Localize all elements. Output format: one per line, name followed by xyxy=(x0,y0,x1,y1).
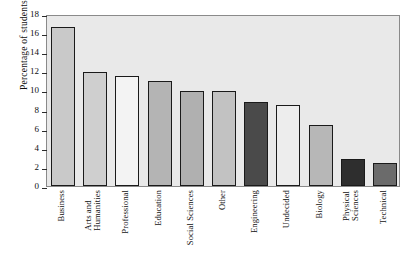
x-axis-category: Education xyxy=(147,190,171,264)
x-axis-label: Arts andHumanities xyxy=(84,190,103,231)
bar xyxy=(115,76,139,186)
bar xyxy=(244,102,268,186)
y-axis-tick-label: 8 xyxy=(13,106,39,115)
bar xyxy=(51,27,75,186)
y-axis-tick xyxy=(42,150,47,151)
x-axis-label: PhysicalSciences xyxy=(342,190,361,221)
x-axis-label: Business xyxy=(57,190,66,221)
y-axis-tick-label: 14 xyxy=(13,48,39,57)
bar xyxy=(309,125,333,186)
y-axis-tick xyxy=(42,188,47,189)
x-axis-category: Biology xyxy=(308,190,332,264)
y-axis-tick xyxy=(42,112,47,113)
x-axis-category: Business xyxy=(50,190,74,264)
x-axis-label: Technical xyxy=(379,190,388,224)
y-axis-tick-label: 18 xyxy=(13,10,39,19)
y-axis-tick-label: 2 xyxy=(13,163,39,172)
plot-area xyxy=(46,15,400,187)
x-axis-label-line: Sciences xyxy=(351,190,360,221)
bar xyxy=(212,91,236,186)
bar xyxy=(180,91,204,186)
y-axis-tick xyxy=(42,169,47,170)
y-axis-tick xyxy=(42,92,47,93)
x-axis-category: Professional xyxy=(114,190,138,264)
bar xyxy=(373,163,397,186)
y-axis-tick-label: 6 xyxy=(13,125,39,134)
bar xyxy=(148,81,172,186)
y-axis-tick-label: 10 xyxy=(13,86,39,95)
x-axis-label: Biology xyxy=(315,190,324,218)
y-axis-tick xyxy=(42,16,47,17)
x-axis-label-line: Undecided xyxy=(282,190,291,228)
x-axis-category: Technical xyxy=(372,190,396,264)
bar xyxy=(83,72,107,186)
x-axis-label: Undecided xyxy=(282,190,291,228)
x-axis-label-line: Social Sciences xyxy=(186,190,195,245)
x-axis-label-line: Other xyxy=(218,190,227,210)
x-axis-label: Social Sciences xyxy=(186,190,195,245)
x-axis-label: Professional xyxy=(121,190,130,234)
y-axis-tick-label: 12 xyxy=(13,67,39,76)
x-axis-label: Engineering xyxy=(250,190,259,233)
y-axis-tick xyxy=(42,73,47,74)
y-axis-tick-label: 0 xyxy=(13,182,39,191)
y-axis-tick xyxy=(42,54,47,55)
x-axis-category: Other xyxy=(211,190,235,264)
y-axis-tick xyxy=(42,131,47,132)
x-axis-category: PhysicalSciences xyxy=(340,190,364,264)
x-axis-label-line: Professional xyxy=(121,190,130,234)
x-axis-label-line: Business xyxy=(57,190,66,221)
x-axis-label-line: Education xyxy=(154,190,163,226)
x-axis-label-line: Humanities xyxy=(94,190,103,231)
y-axis-tick-label: 16 xyxy=(13,29,39,38)
x-axis-label-line: Technical xyxy=(379,190,388,224)
x-axis-category: Arts andHumanities xyxy=(82,190,106,264)
bar xyxy=(341,159,365,186)
x-axis-label: Other xyxy=(218,190,227,210)
x-axis-category: Undecided xyxy=(275,190,299,264)
x-axis-label: Education xyxy=(154,190,163,226)
y-axis-tick-label: 4 xyxy=(13,144,39,153)
x-axis-label-line: Biology xyxy=(315,190,324,218)
bar-chart: Percentage of students 181614121086420 B… xyxy=(0,0,414,267)
x-axis-label-line: Engineering xyxy=(250,190,259,233)
bar xyxy=(276,105,300,186)
y-axis-tick xyxy=(42,35,47,36)
x-axis-category: Engineering xyxy=(243,190,267,264)
plot-inner xyxy=(47,16,399,186)
x-axis-category: Social Sciences xyxy=(179,190,203,264)
